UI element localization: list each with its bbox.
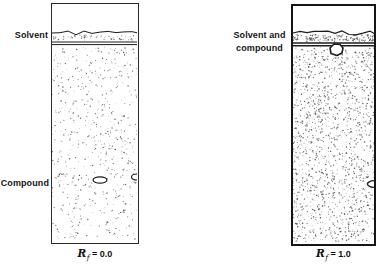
rf-value-left: Rf= 0.0 [51, 246, 139, 262]
plate-texture-left [52, 4, 137, 242]
rf-value-right: Rf= 1.0 [291, 246, 376, 262]
tlc-rf-diagram: Solvent Compound Solvent and compound Rf… [0, 0, 381, 266]
plate-texture-right [293, 6, 374, 244]
solvent-and-compound-label: Solvent and compound [231, 29, 288, 55]
solvent-and-compound-line1: Solvent and [231, 29, 288, 42]
rf-subscript: f [325, 253, 328, 262]
rf-subscript: f [87, 253, 90, 262]
compound-spot-label: Compound [0, 177, 49, 190]
tlc-plate-rf-1 [291, 4, 376, 246]
rf-number: = 0.0 [89, 249, 112, 259]
rf-symbol: R [316, 247, 325, 259]
solvent-and-compound-line2: compound [231, 42, 288, 55]
tlc-plate-rf-0 [51, 3, 139, 244]
rf-number: = 1.0 [328, 249, 351, 259]
solvent-front-label: Solvent [0, 29, 48, 42]
rf-symbol: R [78, 247, 87, 259]
